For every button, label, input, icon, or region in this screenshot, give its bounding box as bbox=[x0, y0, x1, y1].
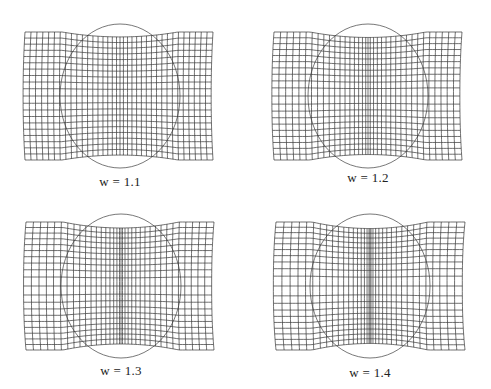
panel-label: w = 1.4 bbox=[349, 365, 391, 381]
grid-mesh bbox=[0, 0, 491, 389]
